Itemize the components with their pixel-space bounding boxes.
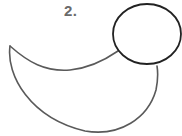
body-upper-curve bbox=[10, 46, 118, 70]
head-circle bbox=[113, 4, 181, 64]
duck-drawing bbox=[0, 0, 182, 136]
body-lower-curve bbox=[10, 46, 158, 132]
